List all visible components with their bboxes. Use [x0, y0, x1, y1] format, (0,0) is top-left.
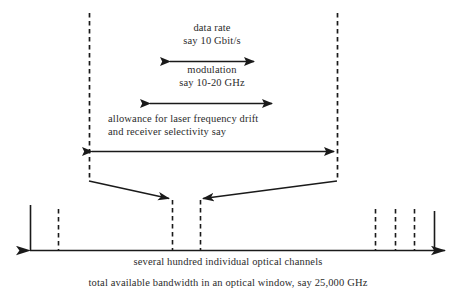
optical-channel-diagram: data rate say 10 Gbit/s modulation say 1…	[0, 0, 457, 295]
data-rate-label: data rate say 10 Gbit/s	[183, 22, 240, 47]
right-converging-arrow	[203, 181, 337, 199]
modulation-label: modulation say 10-20 GHz	[179, 64, 245, 89]
left-converging-arrow	[89, 181, 169, 199]
data-rate-label-line2: say 10 Gbit/s	[183, 35, 240, 48]
allowance-label: allowance for laser frequency drift and …	[108, 113, 258, 138]
channel-comb	[31, 200, 435, 250]
modulation-label-line2: say 10-20 GHz	[179, 77, 245, 90]
allowance-label-line2: and receiver selectivity say	[108, 126, 258, 139]
allowance-label-line1: allowance for laser frequency drift	[108, 113, 258, 126]
bandwidth-caption: total available bandwidth in an optical …	[89, 276, 368, 289]
channels-caption: several hundred individual optical chann…	[134, 255, 323, 268]
data-rate-label-line1: data rate	[183, 22, 240, 35]
modulation-label-line1: modulation	[179, 64, 245, 77]
